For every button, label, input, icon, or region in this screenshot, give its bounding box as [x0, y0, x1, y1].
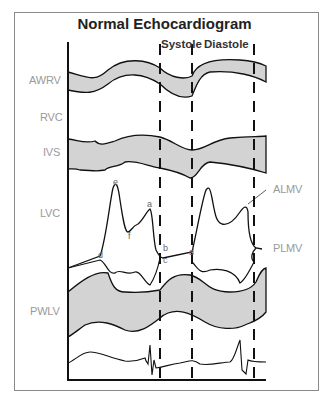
point-c: c	[163, 255, 168, 265]
point-b: b	[163, 243, 168, 253]
label-rvc: RVC	[40, 111, 62, 123]
almv-pointer	[248, 190, 266, 204]
point-e: e	[113, 177, 118, 187]
ivs-band	[68, 135, 266, 178]
point-d-first: d	[98, 250, 103, 260]
point-d-second: d	[189, 247, 194, 257]
label-almv: ALMV	[273, 183, 302, 195]
awrv-band	[68, 60, 266, 97]
systole-label: Systole	[161, 38, 202, 50]
ecg-trace	[68, 340, 266, 375]
diastole-label: Diastole	[204, 38, 249, 50]
pwlv-band	[68, 268, 266, 337]
label-plmv: PLMV	[273, 242, 302, 254]
label-pwlv: PWLV	[30, 305, 60, 317]
point-a: a	[147, 199, 152, 209]
label-lvc: LVC	[40, 207, 60, 219]
label-ivs: IVS	[43, 146, 60, 158]
label-awrv: AWRV	[29, 74, 61, 86]
point-f: f	[128, 231, 131, 241]
echocardiogram-trace	[0, 0, 329, 398]
